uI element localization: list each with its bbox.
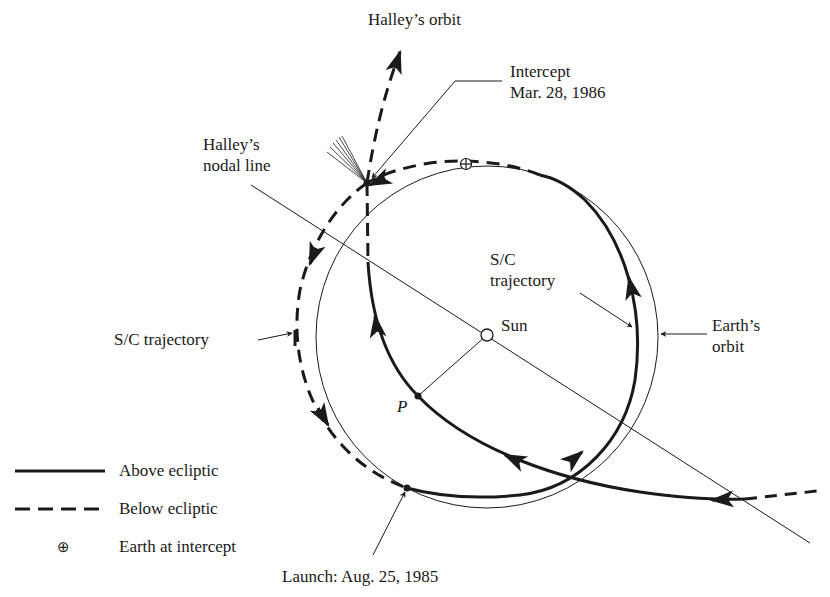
- label-sc-trajectory-outer: S/C trajectory: [114, 330, 209, 350]
- halley-orbit-dashed-inner: [367, 183, 368, 262]
- launch-point: [404, 485, 411, 492]
- label-nodal-line-2: nodal line: [203, 156, 271, 176]
- halley-orbit-dashed-outbound: [367, 52, 400, 183]
- legend-earth-symbol-icon: ⊕: [57, 537, 70, 557]
- sc-outer-leader: [258, 333, 292, 340]
- sc-inner-leader: [580, 293, 632, 327]
- intercept-leader: [372, 81, 502, 178]
- halley-arrow-3: [375, 316, 377, 330]
- legend-label-above: Above ecliptic: [119, 461, 219, 481]
- halley-orbit-dashed-incoming: [745, 491, 817, 499]
- label-intercept: Intercept: [510, 62, 570, 82]
- legend-label-earth: Earth at intercept: [119, 537, 236, 557]
- label-sc-trajectory-inner-2: trajectory: [490, 271, 555, 291]
- sc-arrow-2: [629, 278, 632, 292]
- label-nodal-line-1: Halley’s: [203, 135, 260, 155]
- label-earths-orbit-1: Earth’s: [712, 316, 760, 336]
- label-sun: Sun: [501, 316, 527, 336]
- nodal-line: [251, 185, 810, 543]
- launch-leader: [373, 492, 405, 555]
- earth-symbol-icon: [461, 159, 472, 170]
- legend-label-below: Below ecliptic: [119, 499, 218, 519]
- perihelion-point: [415, 393, 422, 400]
- comet-tail-icon: [327, 136, 367, 183]
- sun-icon: [481, 329, 493, 341]
- label-sc-trajectory-inner-1: S/C: [490, 250, 516, 270]
- intercept-point: [364, 180, 371, 187]
- label-launch: Launch: Aug. 25, 1985: [282, 567, 438, 587]
- halley-arrow-1: [712, 499, 730, 500]
- sc-trajectory-dashed-top: [367, 161, 540, 183]
- label-intercept-date: Mar. 28, 1986: [510, 83, 605, 103]
- label-perihelion: P: [397, 397, 407, 417]
- label-halleys-orbit: Halley’s orbit: [368, 10, 461, 30]
- sun-perihelion-line: [418, 335, 487, 396]
- label-earths-orbit-2: orbit: [712, 337, 744, 357]
- sc-arrow-1: [570, 452, 582, 462]
